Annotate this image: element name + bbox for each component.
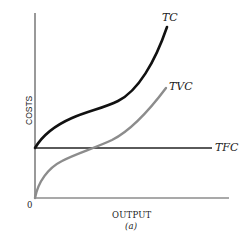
tvc-label: TVC bbox=[169, 80, 193, 93]
tfc-label: TFC bbox=[215, 141, 238, 154]
chart-subtitle: (a) bbox=[125, 221, 137, 231]
x-axis-label: OUTPUT bbox=[112, 210, 151, 220]
origin-label: 0 bbox=[27, 200, 33, 210]
tvc-curve bbox=[35, 88, 166, 198]
tc-curve bbox=[35, 27, 167, 148]
tc-label: TC bbox=[162, 11, 178, 24]
y-axis-label: COSTS bbox=[24, 96, 34, 125]
